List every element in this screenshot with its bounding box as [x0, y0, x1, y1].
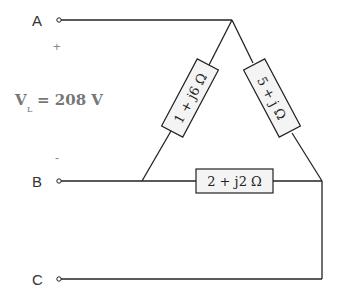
plus-sign: + — [53, 39, 61, 54]
line-voltage-symbol: V — [14, 91, 27, 109]
wire-left-upper — [209, 20, 232, 65]
minus-sign: - — [55, 151, 59, 165]
terminal-b-node — [57, 179, 61, 183]
terminal-a-node — [57, 18, 61, 22]
terminal-b-label: B — [32, 173, 42, 190]
wire-right-upper — [232, 20, 253, 63]
circuit-diagram: A B C + - V L = 208 V 1 + j6 Ω 5 + j Ω 2… — [0, 0, 340, 297]
terminal-c-node — [57, 277, 61, 281]
impedance-ab: 1 + j6 Ω — [162, 59, 219, 137]
terminal-a-label: A — [32, 12, 42, 29]
wire-left-lower — [142, 131, 171, 181]
wire-right-lower — [292, 133, 322, 181]
terminal-c-label: C — [32, 271, 43, 288]
line-voltage-subscript: L — [27, 105, 33, 114]
impedance-bc: 2 + j2 Ω — [196, 169, 273, 193]
impedance-ac: 5 + j Ω — [244, 59, 301, 137]
line-voltage-value: = 208 V — [37, 91, 103, 109]
impedance-bc-label: 2 + j2 Ω — [207, 174, 262, 189]
